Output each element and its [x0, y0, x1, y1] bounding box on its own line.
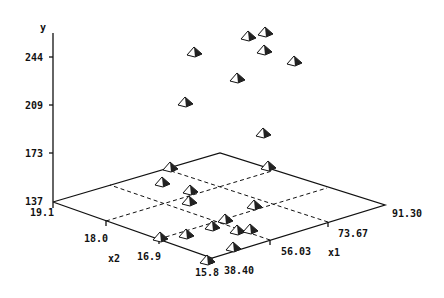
pyramid-marker-icon — [261, 161, 276, 171]
x2-axis-label: x2 — [108, 253, 120, 264]
pyramid-marker-icon — [163, 162, 178, 172]
y-tick-label: 137 — [25, 196, 43, 207]
pyramid-marker-icon — [200, 255, 215, 265]
pyramid-marker-icon — [230, 225, 245, 235]
x2-tick-label: 19.1 — [30, 207, 54, 218]
data-points — [153, 27, 302, 265]
y-tick-label: 209 — [25, 100, 43, 111]
x1-tick-label: 56.03 — [281, 246, 311, 257]
pyramid-marker-icon — [256, 128, 271, 138]
x2-tick-label: 16.9 — [137, 251, 161, 262]
pyramid-marker-icon — [182, 196, 197, 206]
pyramid-marker-icon — [183, 185, 198, 195]
x2-tick-label: 18.0 — [84, 233, 108, 244]
pyramid-marker-icon — [153, 232, 168, 242]
pyramid-marker-icon — [226, 242, 241, 252]
pyramid-marker-icon — [258, 27, 273, 37]
pyramid-marker-icon — [243, 224, 258, 234]
pyramid-marker-icon — [178, 97, 193, 107]
pyramid-marker-icon — [241, 31, 256, 41]
pyramid-marker-icon — [230, 73, 245, 83]
pyramid-marker-icon — [287, 56, 302, 66]
pyramid-marker-icon — [247, 200, 262, 210]
x1-axis-label: x1 — [328, 247, 340, 258]
pyramid-marker-icon — [179, 229, 194, 239]
y-tick-label: 244 — [25, 52, 43, 63]
pyramid-marker-icon — [187, 47, 202, 57]
x1-tick-label: 38.40 — [224, 265, 254, 276]
pyramid-marker-icon — [218, 214, 233, 224]
pyramid-marker-icon — [257, 45, 272, 55]
pyramid-marker-icon — [205, 221, 220, 231]
pyramid-marker-icon — [155, 177, 170, 187]
y-axis-label: y — [40, 22, 46, 33]
scatter-3d-chart: y 244 209 173 137 19.1 18.0 16.9 15.8 x2… — [0, 0, 444, 298]
y-tick-label: 173 — [25, 148, 43, 159]
x2-tick-label: 15.8 — [195, 267, 219, 278]
x1-tick-label: 91.30 — [392, 208, 422, 219]
x1-tick-label: 73.67 — [338, 228, 368, 239]
